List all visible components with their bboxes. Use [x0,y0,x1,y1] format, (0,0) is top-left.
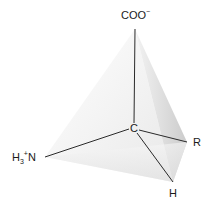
label-hydrogen: H [169,188,177,199]
tetrahedron-diagram: COO− C H3+N R H [0,0,211,206]
amino-n: N [28,151,36,163]
amino-h: H [12,151,20,163]
carboxylate-text: COO [121,9,146,21]
hydrogen-text: H [169,187,177,199]
amino-subscript: 3 [20,158,24,165]
tetrahedron-drawing [0,0,211,206]
carboxylate-charge: − [146,8,150,15]
label-r-group: R [193,137,201,148]
r-group-text: R [193,136,201,148]
label-amino: H3+N [12,152,36,163]
central-carbon-text: C [130,122,138,134]
label-carboxylate: COO− [121,10,150,21]
label-central-carbon: C [130,123,138,134]
